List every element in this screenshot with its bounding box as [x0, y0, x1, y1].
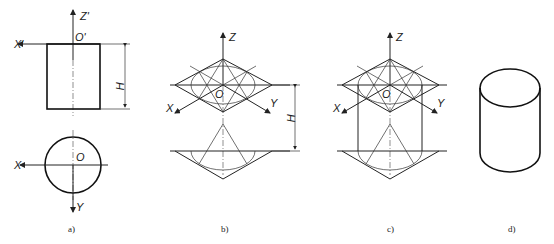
z-label-b: Z — [228, 31, 237, 43]
o-label-b: O — [215, 88, 224, 100]
cylinder-isometric-figure: Z' X' O' H X O Y a) — [0, 0, 554, 244]
x-prime-label: X' — [13, 38, 24, 50]
height-label: H — [114, 82, 126, 90]
panel-d-finished-cylinder: d) — [480, 69, 540, 234]
y-label: Y — [76, 201, 84, 213]
o-label: O — [76, 151, 85, 163]
cylinder-top-ellipse — [480, 69, 540, 107]
caption-c: c) — [387, 224, 394, 234]
panel-a-orthographic-views: Z' X' O' H X O Y a) — [13, 10, 130, 234]
x-label-c: X — [332, 102, 341, 114]
o-prime-label: O' — [75, 31, 87, 43]
x-label-b: X — [165, 102, 174, 114]
o-label-c: O — [382, 88, 391, 100]
x-label: X — [13, 159, 22, 171]
z-label-c: Z — [395, 31, 404, 43]
cylinder-bottom-arc — [480, 153, 540, 172]
panel-c-ellipse-and-tangents: Z O X Y c) — [332, 31, 447, 234]
z-prime-label: Z' — [79, 10, 90, 22]
caption-a: a) — [68, 224, 75, 234]
y-label-b: Y — [270, 97, 278, 109]
panel-b-rhombus-construction: Z O X Y H b) — [165, 31, 300, 234]
height-label-b: H — [285, 114, 297, 122]
caption-d: d) — [508, 224, 516, 234]
y-label-c: Y — [437, 97, 445, 109]
caption-b: b) — [221, 224, 229, 234]
